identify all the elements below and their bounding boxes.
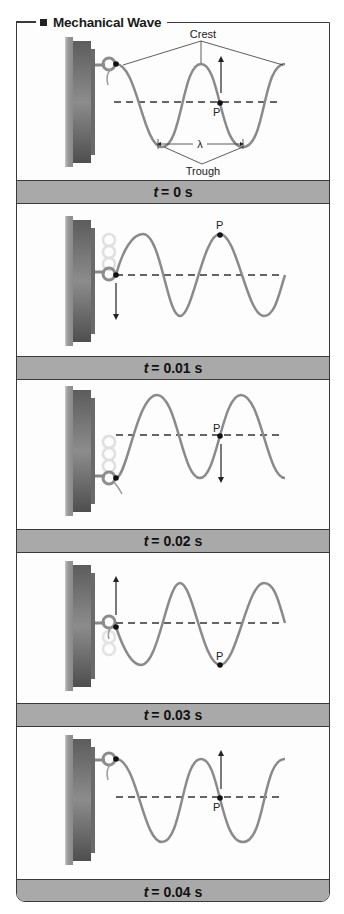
point-p-label: P [216,219,223,231]
source-point [113,756,119,762]
spring-ring-icon [95,58,115,85]
crest-label: Crest [190,28,216,40]
spring-ghost-icon [103,436,115,472]
wall-icon [65,386,95,516]
figure-frame: P Crest Trough λ t = 0 s [16,22,330,902]
wall-icon [65,37,95,167]
point-p [217,795,223,801]
title-square-icon [40,19,47,26]
wave-curve [116,759,285,842]
time-bar-t004: t = 0.04 s [17,879,329,902]
wave-curve [116,583,285,665]
wall-icon [65,561,95,691]
wall-icon [65,735,95,865]
panel-t002: P [17,380,329,529]
time-bar-t001: t = 0.01 s [17,356,329,380]
source-point [113,272,119,278]
source-point [113,624,119,630]
trough-label: Trough [186,165,220,177]
point-p-label: P [216,650,223,662]
point-p [217,662,223,668]
panel-t004: P [17,727,329,879]
spring-ring-icon [95,268,115,280]
time-bar-t002: t = 0.02 s [17,529,329,553]
spring-ghost-icon [103,234,115,270]
point-p [217,100,223,106]
wave-curve [116,64,285,147]
time-bar-t003: t = 0.03 s [17,703,329,727]
point-p [217,433,223,439]
source-point [113,61,119,67]
wave-curve [116,395,285,478]
point-p-label: P [213,106,220,118]
source-point [113,475,119,481]
panel-t001: P [17,204,329,356]
svg-text:λ: λ [197,138,203,150]
point-p-label: P [213,801,220,813]
time-bar-t0: t = 0 s [17,180,329,204]
panel-t003: P [17,553,329,703]
panel-t0: P Crest Trough λ [17,23,329,180]
figure-title-text: Mechanical Wave [53,15,161,30]
figure-title: Mechanical Wave [36,12,167,32]
spring-ring-icon [95,616,115,639]
title-rule [16,21,38,23]
spring-ring-icon [95,753,115,780]
wall-icon [65,216,95,346]
point-p-label: P [213,422,220,434]
point-p [217,232,223,238]
